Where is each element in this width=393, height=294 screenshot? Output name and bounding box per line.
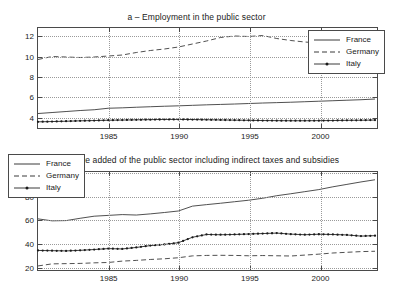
y-tick-mark — [38, 36, 42, 37]
series-marker-italy — [210, 233, 212, 235]
series-marker-italy — [374, 235, 376, 237]
series-marker-italy — [93, 248, 95, 250]
series-marker-italy — [187, 238, 189, 240]
x-tick-mark — [250, 172, 251, 176]
series-marker-italy — [37, 121, 39, 123]
series-marker-italy — [350, 234, 352, 236]
legend-line-marker-icon — [313, 59, 341, 69]
series-marker-italy — [79, 120, 81, 122]
series-marker-italy — [346, 234, 348, 236]
series-line-italy — [38, 233, 375, 251]
y-axis-tick-label: 60 — [25, 216, 34, 225]
series-marker-italy — [196, 235, 198, 237]
series-marker-italy — [327, 233, 329, 235]
series-marker-italy — [247, 233, 249, 235]
series-marker-italy — [252, 119, 254, 121]
series-marker-italy — [70, 120, 72, 122]
series-marker-italy — [229, 233, 231, 235]
series-marker-italy — [252, 233, 254, 235]
series-marker-italy — [93, 119, 95, 121]
series-marker-italy — [145, 119, 147, 121]
series-marker-italy — [219, 119, 221, 121]
series-marker-italy — [56, 250, 58, 252]
y-tick-mark — [373, 97, 377, 98]
series-marker-italy — [336, 234, 338, 236]
legend-entry-germany: Germany — [13, 170, 79, 182]
series-marker-italy — [187, 118, 189, 120]
series-marker-italy — [177, 242, 179, 244]
series-marker-italy — [210, 119, 212, 121]
y-tick-mark — [38, 220, 42, 221]
y-axis-tick-label: 10 — [25, 52, 34, 61]
y-tick-mark — [373, 173, 377, 174]
series-marker-italy — [145, 245, 147, 247]
series-marker-italy — [322, 233, 324, 235]
series-marker-italy — [70, 250, 72, 252]
series-marker-italy — [304, 234, 306, 236]
x-tick-mark — [179, 266, 180, 270]
series-marker-italy — [280, 232, 282, 234]
x-tick-mark — [250, 28, 251, 32]
x-axis-tick-label: 2000 — [312, 274, 330, 283]
x-tick-mark — [109, 124, 110, 128]
series-marker-italy — [369, 119, 371, 121]
series-marker-italy — [177, 118, 179, 120]
x-tick-mark — [179, 124, 180, 128]
legend-line-solid-icon — [313, 35, 341, 45]
series-marker-italy — [327, 119, 329, 121]
series-marker-italy — [60, 120, 62, 122]
series-marker-italy — [74, 249, 76, 251]
series-marker-italy — [154, 244, 156, 246]
series-marker-italy — [88, 249, 90, 251]
y-axis-tick-label: 4 — [30, 113, 34, 122]
legend-line-dashed-icon — [13, 171, 41, 181]
legend-line-solid-icon — [13, 159, 41, 169]
y-tick-mark — [38, 97, 42, 98]
series-marker-italy — [355, 119, 357, 121]
legend-label-germany: Germany — [46, 171, 79, 181]
y-axis-tick-label: 40 — [25, 240, 34, 249]
series-marker-italy — [140, 246, 142, 248]
series-marker-italy — [266, 232, 268, 234]
series-marker-italy — [84, 120, 86, 122]
series-marker-italy — [215, 119, 217, 121]
series-marker-italy — [149, 244, 151, 246]
series-marker-italy — [201, 119, 203, 121]
panel-a-legend: France Germany Italy — [308, 30, 385, 74]
series-marker-italy — [229, 119, 231, 121]
series-marker-italy — [238, 233, 240, 235]
series-marker-italy — [121, 119, 123, 121]
y-tick-mark — [373, 244, 377, 245]
x-tick-mark — [109, 172, 110, 176]
x-tick-mark — [179, 172, 180, 176]
series-marker-italy — [51, 250, 53, 252]
y-tick-mark — [38, 268, 42, 269]
series-marker-italy — [159, 244, 161, 246]
series-marker-italy — [299, 120, 301, 122]
series-marker-italy — [318, 120, 320, 122]
panel-a-title: a – Employment in the public sector — [0, 12, 393, 22]
series-line-france — [38, 99, 375, 114]
y-tick-mark — [38, 244, 42, 245]
legend-label-france: France — [46, 159, 71, 169]
x-tick-mark — [321, 266, 322, 270]
series-marker-italy — [308, 233, 310, 235]
series-marker-italy — [313, 120, 315, 122]
y-axis-tick-label: 8 — [30, 72, 34, 81]
series-marker-italy — [51, 120, 53, 122]
series-marker-italy — [191, 118, 193, 120]
series-marker-italy — [84, 249, 86, 251]
x-axis-tick-label: 1995 — [241, 274, 259, 283]
legend-entry-france: France — [313, 34, 379, 46]
series-marker-italy — [205, 233, 207, 235]
y-tick-mark — [38, 118, 42, 119]
series-marker-italy — [346, 119, 348, 121]
series-marker-italy — [102, 248, 104, 250]
series-marker-italy — [266, 119, 268, 121]
x-axis-tick-label: 1985 — [100, 274, 118, 283]
series-marker-italy — [365, 235, 367, 237]
series-marker-italy — [215, 234, 217, 236]
y-tick-mark — [373, 268, 377, 269]
y-tick-mark — [38, 57, 42, 58]
series-marker-italy — [196, 118, 198, 120]
